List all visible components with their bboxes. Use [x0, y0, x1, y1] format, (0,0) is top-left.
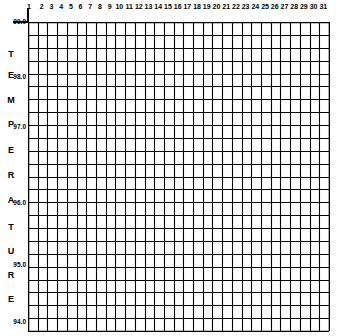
- day-label: 6: [76, 2, 86, 12]
- day-label: 22: [231, 2, 241, 12]
- temperature-tick-label: 94.0: [0, 318, 26, 326]
- day-label: 3: [46, 2, 56, 12]
- y-axis-title-letter: R: [6, 270, 16, 280]
- day-label: 24: [250, 2, 260, 12]
- day-label: 4: [56, 2, 66, 12]
- day-label: 15: [163, 2, 173, 12]
- temperature-chart: 1234567891011121314151617181920212223242…: [0, 0, 337, 336]
- y-axis-title-letter: P: [6, 119, 16, 129]
- y-axis-title-letter: U: [6, 246, 16, 256]
- day-label: 10: [114, 2, 124, 12]
- day-label: 19: [202, 2, 212, 12]
- day-label: 17: [182, 2, 192, 12]
- grid-lines: [28, 22, 330, 332]
- day-label: 1: [24, 2, 34, 12]
- day-label: 30: [309, 2, 319, 12]
- day-label: 20: [211, 2, 221, 12]
- day-label: 11: [124, 2, 134, 12]
- y-axis-title-letter: T: [6, 222, 16, 232]
- y-axis-title-letter: E: [6, 294, 16, 304]
- day-label: 8: [95, 2, 105, 12]
- y-axis-title-letter: R: [6, 170, 16, 180]
- day-label: 23: [241, 2, 251, 12]
- day-label: 25: [260, 2, 270, 12]
- day-label: 31: [318, 2, 328, 12]
- day-label: 12: [134, 2, 144, 12]
- day-label: 21: [221, 2, 231, 12]
- day-label: 5: [66, 2, 76, 12]
- temperature-tick-label: 99.0: [0, 18, 26, 26]
- day-label: 7: [85, 2, 95, 12]
- day-label: 18: [192, 2, 202, 12]
- y-axis-title-letter: E: [6, 145, 16, 155]
- chart-grid: [28, 22, 329, 331]
- y-axis-title-letter: A: [6, 195, 16, 205]
- day-label: 13: [144, 2, 154, 12]
- y-axis-title-letter: M: [6, 95, 16, 105]
- y-axis-title-letter: T: [6, 49, 16, 59]
- day-label: 16: [173, 2, 183, 12]
- day-label: 29: [299, 2, 309, 12]
- day-label: 28: [289, 2, 299, 12]
- day-labels: 1234567891011121314151617181920212223242…: [28, 2, 329, 14]
- temperature-tick-label: 95.0: [0, 261, 26, 269]
- y-axis-title-letter: E: [6, 70, 16, 80]
- day-label: 27: [279, 2, 289, 12]
- day-label: 9: [105, 2, 115, 12]
- day-label: 2: [37, 2, 47, 12]
- day-label: 14: [153, 2, 163, 12]
- day-label: 26: [270, 2, 280, 12]
